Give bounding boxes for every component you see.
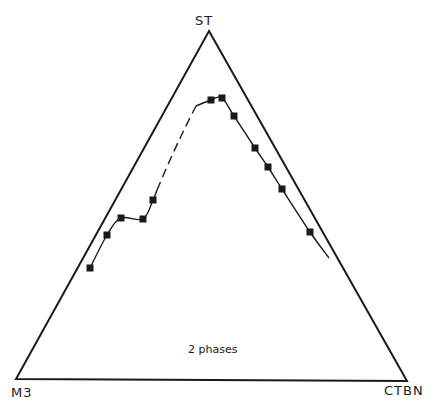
data-point-marker	[252, 145, 259, 152]
data-point-marker	[87, 265, 94, 272]
data-point-marker	[265, 164, 272, 171]
data-point-marker	[104, 232, 111, 239]
data-point-marker	[219, 95, 226, 102]
two-phase-region-label: 2 phases	[188, 344, 237, 355]
data-point-marker	[279, 186, 286, 193]
binodal-curve-dashed-segment	[157, 106, 196, 190]
data-point-marker	[307, 229, 314, 236]
vertex-label-ctbn: CTBN	[384, 384, 424, 397]
vertex-label-st: ST	[195, 14, 213, 27]
data-point-marker	[150, 197, 157, 204]
data-point-marker	[118, 215, 125, 222]
ternary-triangle-outline	[16, 31, 407, 381]
data-point-marker	[231, 113, 238, 120]
data-point-marker	[140, 216, 147, 223]
data-point-marker	[208, 97, 215, 104]
data-point-markers	[87, 95, 314, 272]
vertex-label-m3: M3	[11, 386, 33, 399]
